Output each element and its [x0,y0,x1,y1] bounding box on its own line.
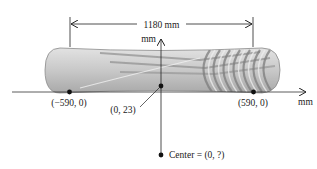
label-center-top: (0, 23) [110,105,135,116]
point-center [159,153,164,158]
label-right-end: (590, 0) [238,98,268,109]
vertical-axis-label: mm [141,34,156,44]
point-right-end [251,90,256,95]
point-left-end [67,90,72,95]
dimension-label: 1180 mm [144,20,180,30]
points: (−590, 0) (0, 23) (590, 0) Center = (0, … [51,84,268,161]
dimension-indicator: 1180 mm [70,17,253,47]
label-left-end: (−590, 0) [51,98,86,109]
diagram-canvas: 1180 mm mm mm (−590, 0) (0, 23) (590, 0)… [0,0,317,169]
horizontal-axis-label: mm [298,97,313,107]
label-center: Center = (0, ?) [169,150,224,161]
point-center-top [159,84,164,89]
